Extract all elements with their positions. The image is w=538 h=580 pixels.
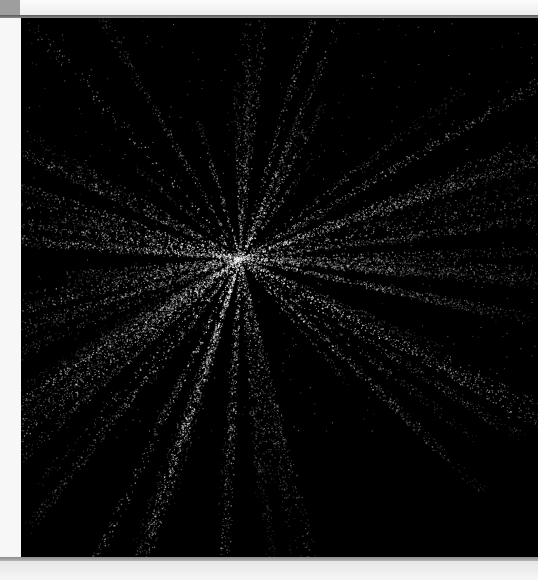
starburst-canvas	[21, 18, 538, 557]
corner-tab[interactable]	[0, 0, 20, 15]
render-viewport[interactable]	[21, 18, 538, 557]
canvas-background	[21, 18, 538, 557]
left-gutter	[0, 18, 21, 557]
status-bar	[0, 561, 538, 580]
top-toolbar	[0, 0, 538, 15]
